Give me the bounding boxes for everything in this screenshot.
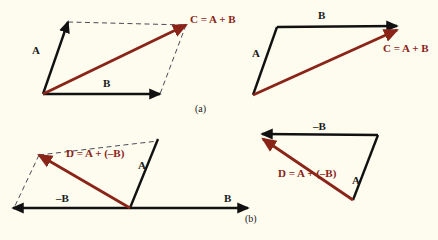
label-vector-b-panel-a: B — [103, 78, 110, 89]
label-vector-b-panel-a2: B — [318, 10, 325, 21]
vector-c-arrow-panel-a2 — [253, 30, 397, 95]
label-vector-d-panel-b2: D = A + (–B) — [278, 168, 336, 179]
label-vector-b-panel-b: B — [224, 193, 231, 204]
label-vector-d-panel-b: D = A + (–B) — [66, 148, 124, 159]
label-vector-c-panel-a: C = A + B — [190, 14, 236, 25]
label-vector-negb-panel-b: –B — [56, 193, 69, 204]
panel-a-parallelogram-group — [43, 22, 186, 94]
vector-b-arrow-panel-a2 — [277, 26, 397, 27]
label-vector-negb-panel-b2: –B — [313, 121, 326, 132]
dashed-top-edge-a — [68, 22, 186, 25]
vector-diagram-canvas — [0, 0, 438, 240]
label-vector-a-panel-a2: A — [252, 48, 260, 59]
label-vector-c-panel-a2: C = A + B — [383, 43, 429, 54]
vector-negb-arrow-panel-b2 — [262, 134, 378, 135]
label-vector-a-panel-b2: A — [352, 175, 360, 186]
caption-a: (a) — [195, 104, 206, 114]
vector-a-arrow-panel-b — [130, 139, 158, 208]
vector-a-arrow-panel-b2 — [353, 135, 378, 200]
vector-d-arrow-panel-b — [39, 155, 130, 208]
vector-addition-figure: A B C = A + B A B C = A + B (a) D = A + … — [0, 0, 438, 240]
label-vector-a-panel-a: A — [32, 45, 40, 56]
panel-b-parallelogram-group — [13, 139, 248, 208]
caption-b: (b) — [245, 214, 257, 224]
panel-a-triangle-group — [253, 26, 397, 95]
dashed-left-edge-b — [14, 155, 39, 208]
label-vector-a-panel-b: A — [138, 160, 146, 171]
